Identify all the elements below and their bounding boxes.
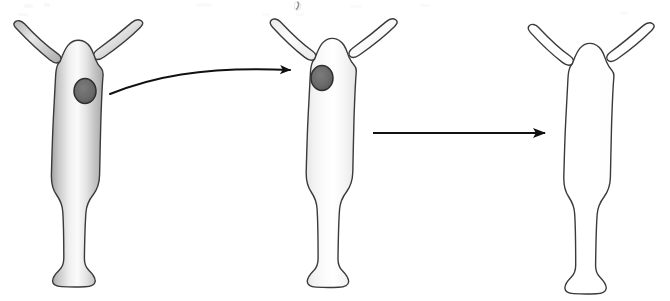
organism-2-graft-spot <box>311 66 333 91</box>
organism-1-graft-spot <box>74 79 96 104</box>
arrow-1-transfer <box>110 69 290 94</box>
organism-3-body <box>564 43 614 294</box>
organism-1-body <box>51 40 103 287</box>
figure-root <box>0 0 670 301</box>
hydra-regeneration-diagram <box>0 0 670 301</box>
organism-2 <box>270 19 397 288</box>
organism-1-tentacle-right <box>93 20 142 59</box>
organism-2-tentacle-right <box>349 19 397 57</box>
organism-1 <box>14 20 143 287</box>
organism-3-tentacle-left <box>528 24 573 65</box>
organism-3-tentacle-right <box>607 23 654 61</box>
organism-2-tentacle-left <box>270 19 316 60</box>
organism-1-tentacle-left <box>14 21 62 63</box>
organism-3 <box>528 23 654 294</box>
